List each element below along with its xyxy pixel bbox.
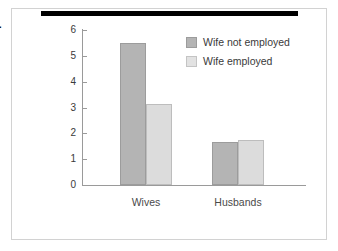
y-tick-label: 4 xyxy=(62,77,76,87)
legend-swatch-icon-series-0 xyxy=(186,37,197,48)
legend-item-1: Wife employed xyxy=(186,55,290,67)
y-tick-label: 5 xyxy=(62,51,76,61)
y-tick-label: 1 xyxy=(62,154,76,164)
x-axis-label-husbands: Husbands xyxy=(193,196,283,208)
x-axis-line xyxy=(82,185,306,186)
y-tick-mark xyxy=(82,185,87,186)
y-tick-mark xyxy=(82,108,87,109)
legend-swatch-icon-series-1 xyxy=(186,56,197,67)
y-tick-mark xyxy=(82,133,87,134)
bar-husbands-series-0 xyxy=(212,142,238,185)
chart-legend: Wife not employed Wife employed xyxy=(186,36,290,74)
y-axis-title-line-2: performed each day xyxy=(0,0,2,52)
bar-husbands-series-1 xyxy=(238,140,264,185)
y-tick-label: 3 xyxy=(62,103,76,113)
x-axis-label-wives: Wives xyxy=(101,196,191,208)
legend-label-series-0: Wife not employed xyxy=(203,36,290,48)
y-tick-mark xyxy=(82,56,87,57)
y-tick-label: 2 xyxy=(62,128,76,138)
y-tick-mark xyxy=(82,82,87,83)
bar-wives-series-0 xyxy=(120,43,146,185)
y-tick-mark xyxy=(82,159,87,160)
legend-label-series-1: Wife employed xyxy=(203,55,272,67)
bar-wives-series-1 xyxy=(146,104,172,185)
y-tick-mark xyxy=(82,30,87,31)
y-tick-label: 6 xyxy=(62,25,76,35)
y-tick-label: 0 xyxy=(62,180,76,190)
y-axis-title: Hours of housework performed each day xyxy=(0,0,2,52)
legend-item-0: Wife not employed xyxy=(186,36,290,48)
chart-figure: Hours of housework performed each day 01… xyxy=(0,0,338,251)
top-rule-divider xyxy=(41,11,298,16)
